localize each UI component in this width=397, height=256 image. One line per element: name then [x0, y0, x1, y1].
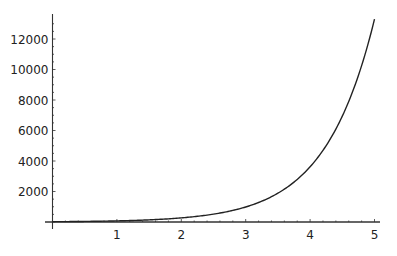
x-tick-label: 3 — [242, 228, 250, 242]
y-tick-label: 12000 — [10, 33, 48, 47]
y-tick-label: 6000 — [18, 124, 49, 138]
chart: 1234520004000600080001000012000 — [0, 0, 397, 256]
axes — [45, 14, 380, 229]
x-tick-label: 5 — [371, 228, 379, 242]
tick-labels: 1234520004000600080001000012000 — [10, 33, 378, 243]
x-tick-label: 4 — [306, 228, 314, 242]
x-tick-label: 2 — [177, 228, 185, 242]
ticks — [53, 24, 375, 222]
y-tick-label: 4000 — [18, 155, 49, 169]
y-tick-label: 10000 — [10, 63, 48, 77]
y-tick-label: 2000 — [18, 185, 49, 199]
y-tick-label: 8000 — [18, 94, 49, 108]
x-tick-label: 1 — [113, 228, 121, 242]
data-line — [53, 19, 375, 222]
